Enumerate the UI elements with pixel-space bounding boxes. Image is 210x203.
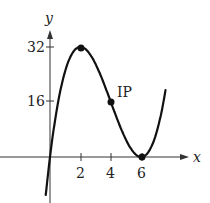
tick-label-y-32: 32 — [27, 39, 45, 55]
tick-label-y-16: 16 — [27, 93, 45, 109]
y-axis-label: y — [44, 10, 54, 26]
max-point — [78, 45, 85, 52]
tick-label-x-6: 6 — [137, 165, 146, 181]
x-axis-label: x — [193, 149, 201, 165]
min-point — [139, 154, 146, 161]
tick-label-x-2: 2 — [76, 165, 85, 181]
tick-label-x-4: 4 — [106, 165, 115, 181]
inflection-label: IP — [117, 84, 132, 100]
y-axis-arrow-icon — [47, 30, 53, 39]
x-axis-arrow-icon — [180, 154, 189, 160]
chart: x y 32 16 2 4 6 IP — [0, 0, 210, 203]
inflection-point — [108, 99, 115, 106]
